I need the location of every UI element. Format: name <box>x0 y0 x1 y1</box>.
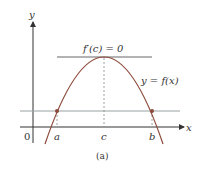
x-axis-label: x <box>186 122 192 133</box>
curve-label: y = f(x) <box>140 75 179 86</box>
y-axis-label: y <box>28 9 35 20</box>
point-a-label: a <box>54 131 60 142</box>
rolle-theorem-diagram: y x 0 f′(c) = 0 y = f(x) a c b (a) <box>0 0 200 170</box>
tangent-label: f′(c) = 0 <box>82 43 124 54</box>
point-b-dot <box>150 109 154 113</box>
origin-label: 0 <box>24 131 30 142</box>
point-c-label: c <box>101 131 107 142</box>
point-b-label: b <box>149 131 155 142</box>
caption: (a) <box>96 151 108 161</box>
point-a-dot <box>55 109 59 113</box>
